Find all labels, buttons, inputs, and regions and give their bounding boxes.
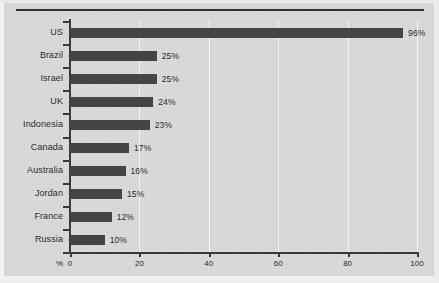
bar bbox=[70, 28, 403, 38]
category-label: UK bbox=[50, 96, 63, 106]
y-axis-tick bbox=[63, 67, 70, 69]
x-axis-tick-40 bbox=[209, 252, 211, 257]
value-label: 17% bbox=[134, 143, 151, 153]
bar bbox=[70, 51, 157, 61]
x-axis-unit-label: % bbox=[56, 259, 63, 268]
y-axis-tick bbox=[63, 90, 70, 92]
x-axis-label-100: 100 bbox=[410, 259, 423, 268]
value-label: 25% bbox=[162, 51, 179, 61]
bar-row: Canada17% bbox=[70, 143, 417, 153]
category-label: Canada bbox=[31, 142, 63, 152]
bar-row: Israel25% bbox=[70, 74, 417, 84]
y-axis-tick bbox=[63, 21, 70, 23]
category-label: Indonesia bbox=[23, 119, 63, 129]
category-label: Australia bbox=[27, 165, 63, 175]
x-axis-tick-60 bbox=[278, 252, 280, 257]
bar-row: UK24% bbox=[70, 97, 417, 107]
y-axis-tick bbox=[63, 44, 70, 46]
y-axis-tick bbox=[63, 113, 70, 115]
category-label: Israel bbox=[40, 73, 63, 83]
x-axis-tick-20 bbox=[139, 252, 141, 257]
bar-row: US96% bbox=[70, 28, 417, 38]
gridline-100 bbox=[417, 21, 418, 252]
y-axis-tick bbox=[63, 229, 70, 231]
value-label: 24% bbox=[158, 97, 175, 107]
x-axis-tick-0 bbox=[70, 252, 72, 257]
y-axis-tick bbox=[63, 252, 70, 254]
y-axis-tick bbox=[63, 206, 70, 208]
x-axis-tick-80 bbox=[348, 252, 350, 257]
x-axis-label-0: 0 bbox=[68, 259, 72, 268]
category-label: US bbox=[50, 27, 63, 37]
value-label: 96% bbox=[408, 28, 425, 38]
bar bbox=[70, 143, 129, 153]
x-axis-tick-100 bbox=[417, 252, 419, 257]
chart-page: US96%Brazil25%Israel25%UK24%Indonesia23%… bbox=[0, 0, 439, 283]
category-label: Brazil bbox=[40, 50, 63, 60]
bar bbox=[70, 212, 112, 222]
bar-row: Jordan15% bbox=[70, 189, 417, 199]
bar bbox=[70, 189, 122, 199]
value-label: 16% bbox=[131, 166, 148, 176]
x-axis-line bbox=[69, 252, 418, 254]
value-label: 23% bbox=[155, 120, 172, 130]
value-label: 15% bbox=[127, 189, 144, 199]
bar bbox=[70, 166, 126, 176]
y-axis-tick bbox=[63, 160, 70, 162]
bar bbox=[70, 97, 153, 107]
bar-row: France12% bbox=[70, 212, 417, 222]
x-axis-label-40: 40 bbox=[204, 259, 213, 268]
bar bbox=[70, 235, 105, 245]
y-axis-tick bbox=[63, 183, 70, 185]
bar-row: Australia16% bbox=[70, 166, 417, 176]
category-label: Russia bbox=[35, 234, 63, 244]
category-label: Jordan bbox=[35, 188, 63, 198]
value-label: 10% bbox=[110, 235, 127, 245]
x-axis-label-80: 80 bbox=[343, 259, 352, 268]
bar-row: Russia10% bbox=[70, 235, 417, 245]
bar-row: Indonesia23% bbox=[70, 120, 417, 130]
x-axis-label-60: 60 bbox=[274, 259, 283, 268]
bar bbox=[70, 74, 157, 84]
category-label: France bbox=[34, 211, 63, 221]
bar-chart: US96%Brazil25%Israel25%UK24%Indonesia23%… bbox=[4, 3, 434, 279]
bar bbox=[70, 120, 150, 130]
bar-row: Brazil25% bbox=[70, 51, 417, 61]
value-label: 12% bbox=[117, 212, 134, 222]
value-label: 25% bbox=[162, 74, 179, 84]
x-axis-label-20: 20 bbox=[135, 259, 144, 268]
y-axis-tick bbox=[63, 137, 70, 139]
